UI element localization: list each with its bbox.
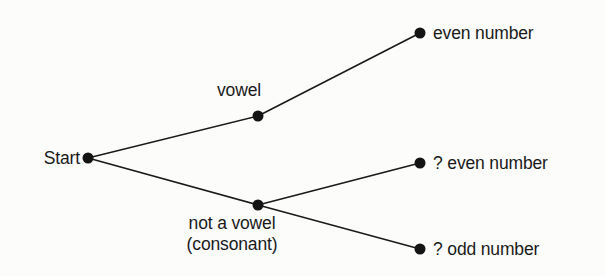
tree-label-odd_q: ? odd number	[433, 239, 539, 260]
tree-label-vowel: vowel	[217, 80, 261, 101]
tree-node-vowel	[253, 111, 264, 122]
tree-edge-vowel-even	[258, 33, 420, 116]
tree-node-consonant	[253, 200, 264, 211]
tree-edge-start-vowel	[88, 116, 258, 158]
tree-edge-consonant-odd-q	[258, 205, 420, 249]
tree-node-odd_q	[415, 244, 426, 255]
tree-node-start	[83, 153, 94, 164]
tree-node-even	[415, 28, 426, 39]
tree-node-even_q	[415, 158, 426, 169]
tree-label-consonant: not a vowel (consonant)	[187, 213, 278, 254]
tree-label-even_q: ? even number	[433, 153, 548, 174]
tree-label-start: Start	[44, 148, 80, 169]
tree-edge-start-consonant	[88, 158, 258, 205]
probability-tree-diagram: Startvowelnot a vowel (consonant)even nu…	[0, 0, 606, 276]
tree-label-even: even number	[433, 23, 534, 44]
tree-edge-consonant-even-q	[258, 163, 420, 205]
